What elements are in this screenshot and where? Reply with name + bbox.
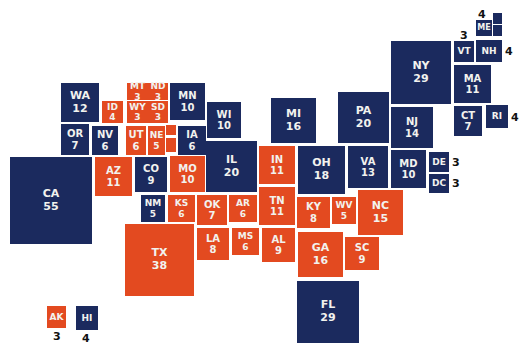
state-abbr: MN: [178, 90, 196, 102]
state-abbr: LA: [206, 233, 220, 245]
electoral-votes: 7: [72, 140, 79, 152]
state-tile-wy: WY3: [127, 101, 148, 123]
state-tile-wi: WI10: [207, 102, 241, 138]
split-tile-ne-district-b: [166, 138, 176, 152]
electoral-votes: 11: [270, 206, 284, 218]
state-tile-hi: HI: [76, 306, 98, 330]
electoral-votes: 5: [341, 211, 347, 221]
state-abbr: IA: [186, 129, 197, 141]
state-abbr: CA: [43, 188, 60, 201]
electoral-votes: 7: [209, 210, 216, 222]
state-tile-ri: RI: [486, 105, 508, 128]
state-tile-ma: MA11: [454, 65, 491, 103]
state-abbr: DC: [432, 178, 446, 188]
electoral-votes: 6: [102, 141, 109, 153]
state-tile-ms: MS6: [232, 228, 259, 255]
state-abbr: ID: [107, 102, 118, 112]
state-abbr: SC: [355, 242, 370, 254]
state-tile-ks: KS6: [168, 195, 195, 222]
state-abbr: DE: [432, 157, 446, 167]
state-tile-la: LA8: [197, 228, 229, 260]
state-abbr: PA: [356, 105, 372, 118]
electoral-votes: 6: [178, 209, 184, 219]
electoral-votes: 12: [72, 103, 87, 116]
state-abbr: MI: [286, 108, 301, 121]
state-abbr: ND: [150, 81, 165, 91]
state-abbr: AK: [50, 312, 64, 322]
electoral-votes: 10: [181, 174, 195, 186]
ev-label-ri: 4: [511, 111, 519, 124]
ev-label-nh: 4: [505, 45, 513, 58]
state-tile-nc: NC15: [358, 190, 403, 235]
state-abbr: VT: [457, 46, 470, 56]
electoral-votes: 6: [240, 209, 246, 219]
split-tile-me-district-2: [493, 25, 502, 36]
state-tile-mi: MI16: [271, 98, 316, 143]
state-tile-il: IL20: [206, 141, 257, 192]
electoral-votes: 11: [270, 165, 284, 177]
electoral-votes: 9: [359, 254, 366, 266]
electoral-cartogram: WA12OR7CA55ID4NV6MT3WY3UT6AZ11ND3SD3NE5C…: [0, 0, 527, 356]
state-abbr: KS: [175, 198, 188, 208]
state-tile-tn: TN11: [259, 187, 295, 225]
state-tile-pa: PA20: [338, 92, 389, 143]
state-tile-mn: MN10: [170, 83, 205, 120]
split-tile-me-district-1: [493, 13, 502, 24]
ev-label-vt: 3: [460, 29, 468, 42]
state-abbr: NE: [150, 130, 164, 140]
electoral-votes: 16: [286, 121, 301, 134]
state-tile-ny: NY29: [391, 41, 451, 104]
state-tile-ct: CT7: [454, 106, 482, 136]
state-tile-ak: AK: [47, 306, 66, 328]
electoral-votes: 6: [133, 141, 140, 153]
electoral-votes: 3: [134, 112, 140, 122]
state-abbr: WY: [129, 102, 145, 112]
ev-label-dc: 3: [452, 177, 460, 190]
state-abbr: SD: [151, 102, 165, 112]
state-tile-wa: WA12: [61, 83, 99, 122]
state-tile-ca: CA55: [10, 157, 92, 244]
state-abbr: MA: [464, 73, 482, 85]
state-tile-me: ME: [476, 20, 492, 36]
electoral-votes: 20: [356, 118, 371, 131]
state-tile-ok: OK7: [197, 195, 227, 225]
state-abbr: HI: [82, 313, 93, 323]
state-tile-va: VA13: [348, 146, 388, 188]
state-abbr: NJ: [406, 116, 418, 128]
state-tile-vt: VT: [454, 41, 474, 62]
electoral-votes: 10: [402, 169, 416, 181]
state-abbr: CO: [143, 163, 159, 175]
state-abbr: NH: [481, 46, 496, 56]
electoral-votes: 18: [314, 170, 329, 183]
state-tile-de: DE: [429, 152, 449, 172]
state-tile-wv: WV5: [332, 197, 356, 224]
state-tile-mt: MT3: [127, 83, 148, 100]
state-abbr: NM: [145, 198, 162, 208]
electoral-votes: 9: [275, 245, 282, 257]
electoral-votes: 8: [210, 244, 217, 256]
electoral-votes: 6: [189, 141, 196, 153]
state-tile-ar: AR6: [229, 195, 257, 222]
state-tile-in: IN11: [259, 146, 295, 184]
state-abbr: TN: [269, 195, 284, 207]
state-tile-nj: NJ14: [391, 107, 433, 148]
state-tile-ga: GA16: [298, 232, 343, 277]
electoral-votes: 11: [107, 177, 121, 189]
state-tile-oh: OH18: [298, 146, 345, 194]
state-tile-id: ID4: [102, 101, 123, 123]
state-abbr: CT: [461, 110, 475, 122]
electoral-votes: 20: [224, 167, 239, 180]
state-abbr: NY: [412, 60, 429, 73]
electoral-votes: 10: [181, 102, 195, 114]
ev-label-de: 3: [452, 156, 460, 169]
state-tile-al: AL9: [262, 228, 295, 262]
electoral-votes: 5: [153, 141, 159, 151]
electoral-votes: 6: [242, 242, 248, 252]
state-tile-or: OR7: [61, 124, 89, 155]
electoral-votes: 11: [466, 84, 480, 96]
electoral-votes: 8: [310, 213, 317, 225]
state-abbr: MO: [178, 163, 196, 175]
state-abbr: OR: [67, 128, 83, 140]
electoral-votes: 3: [155, 112, 161, 122]
state-tile-co: CO9: [135, 157, 167, 192]
